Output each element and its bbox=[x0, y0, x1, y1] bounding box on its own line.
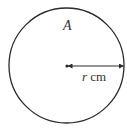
circle-diagram: A r cm bbox=[0, 0, 127, 132]
radius-unit: cm bbox=[87, 69, 106, 84]
radius-label: r cm bbox=[82, 69, 106, 84]
area-label: A bbox=[62, 18, 72, 33]
